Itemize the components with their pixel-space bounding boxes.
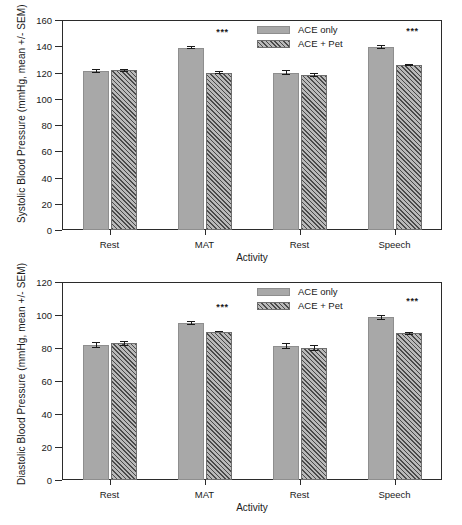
bar-ace-only-mat [178, 323, 204, 480]
legend-label: ACE + Pet [298, 300, 343, 311]
x-axis-tick-label: MAT [195, 489, 214, 500]
y-axis-tick [55, 282, 62, 283]
y-axis-tick [55, 230, 62, 231]
x-axis-label-diastolic: Activity [236, 502, 268, 513]
y-axis-tick-label: 160 [36, 15, 52, 26]
y-axis-tick [55, 73, 62, 74]
x-axis-tick [395, 480, 396, 485]
y-axis-tick [55, 447, 62, 448]
bar-ace-only-rest [273, 346, 299, 480]
legend-item: ACE only [257, 24, 343, 35]
bar-ace-only-rest [273, 73, 299, 231]
y-axis-tick-label: 140 [36, 41, 52, 52]
y-axis-tick-label: 60 [41, 376, 52, 387]
panel-diastolic: Diastolic Blood Pressure (mmHg, mean +/-… [0, 262, 462, 524]
legend-swatch-solid-icon [257, 288, 290, 296]
x-axis-tick [395, 230, 396, 235]
y-axis-tick [55, 348, 62, 349]
x-axis-tick-label: Rest [100, 489, 120, 500]
x-axis-tick [110, 230, 111, 235]
figure-blood-pressure: Systolic Blood Pressure (mmHg, mean +/- … [0, 0, 462, 525]
legend-swatch-hatched-icon [257, 40, 290, 48]
y-axis-tick-label: 40 [41, 409, 52, 420]
bar-ace-pet-rest [301, 75, 327, 230]
plot-area-systolic: Activity ACE onlyACE + Pet 0204060801001… [62, 20, 442, 230]
significance-marker: *** [216, 28, 228, 37]
x-axis-tick [300, 480, 301, 485]
bar-ace-pet-speech [396, 65, 422, 230]
bar-ace-pet-speech [396, 333, 422, 480]
x-axis-tick-label: Rest [290, 239, 310, 250]
x-axis-tick-label: Rest [100, 239, 120, 250]
x-axis-tick [300, 230, 301, 235]
panel-systolic: Systolic Blood Pressure (mmHg, mean +/- … [0, 0, 462, 262]
bar-ace-pet-rest [111, 70, 137, 230]
legend-item: ACE only [257, 286, 343, 297]
y-axis-tick-label: 40 [41, 172, 52, 183]
legend-diastolic: ACE onlyACE + Pet [257, 286, 343, 314]
y-axis-tick-label: 20 [41, 198, 52, 209]
significance-marker: *** [406, 27, 418, 36]
y-axis-tick [55, 204, 62, 205]
x-axis-tick-label: Speech [378, 489, 410, 500]
bar-ace-only-speech [368, 317, 394, 480]
y-axis-tick-label: 120 [36, 67, 52, 78]
x-axis-tick [110, 480, 111, 485]
y-axis-tick-label: 60 [41, 146, 52, 157]
y-axis-tick-label: 80 [41, 343, 52, 354]
legend-swatch-hatched-icon [257, 302, 290, 310]
y-axis-tick [55, 99, 62, 100]
y-axis-tick [55, 178, 62, 179]
bar-ace-only-rest [83, 71, 109, 230]
bar-ace-only-rest [83, 345, 109, 480]
y-axis-tick [55, 414, 62, 415]
bar-ace-only-mat [178, 48, 204, 230]
y-axis-tick [55, 125, 62, 126]
significance-marker: *** [406, 297, 418, 306]
bar-ace-pet-mat [206, 332, 232, 481]
x-axis-tick-label: Rest [290, 489, 310, 500]
legend-label: ACE + Pet [298, 38, 343, 49]
y-axis-tick-label: 80 [41, 120, 52, 131]
y-axis-tick [55, 381, 62, 382]
legend-systolic: ACE onlyACE + Pet [257, 24, 343, 52]
bar-ace-pet-rest [111, 343, 137, 480]
x-axis-tick [205, 480, 206, 485]
y-axis-tick [55, 480, 62, 481]
x-axis-tick-label: Speech [378, 239, 410, 250]
bar-ace-pet-mat [206, 73, 232, 231]
legend-item: ACE + Pet [257, 300, 343, 311]
y-axis-tick-label: 0 [47, 225, 52, 236]
legend-label: ACE only [298, 24, 338, 35]
y-axis-tick-label: 100 [36, 310, 52, 321]
legend-swatch-solid-icon [257, 26, 290, 34]
plot-area-diastolic: Activity ACE onlyACE + Pet 0204060801001… [62, 282, 442, 480]
legend-label: ACE only [298, 286, 338, 297]
y-axis-label-diastolic: Diastolic Blood Pressure (mmHg, mean +/-… [16, 275, 27, 485]
y-axis-tick [55, 315, 62, 316]
y-axis-tick-label: 120 [36, 277, 52, 288]
significance-marker: *** [216, 303, 228, 312]
y-axis-tick [55, 46, 62, 47]
y-axis-tick-label: 0 [47, 475, 52, 486]
y-axis-tick [55, 20, 62, 21]
y-axis-label-systolic: Systolic Blood Pressure (mmHg, mean +/- … [16, 13, 27, 223]
legend-item: ACE + Pet [257, 38, 343, 49]
y-axis-tick-label: 100 [36, 93, 52, 104]
bar-ace-only-speech [368, 47, 394, 230]
y-axis-tick [55, 151, 62, 152]
x-axis-tick [205, 230, 206, 235]
y-axis-tick-label: 20 [41, 442, 52, 453]
bar-ace-pet-rest [301, 348, 327, 480]
x-axis-tick-label: MAT [195, 239, 214, 250]
